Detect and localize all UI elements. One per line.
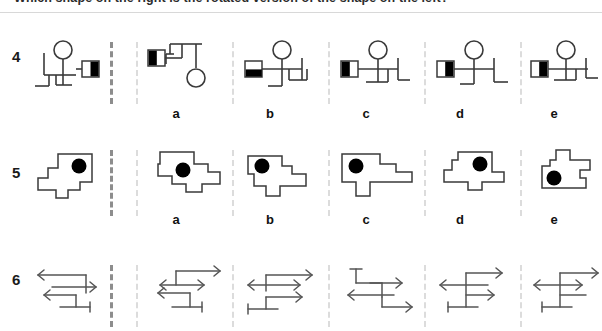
row-4-option-a[interactable] bbox=[146, 38, 232, 133]
row-6-separator-d bbox=[424, 265, 426, 327]
row-5-reference-figure bbox=[30, 146, 110, 238]
row-5-option-b[interactable] bbox=[240, 146, 326, 238]
row-6-option-b[interactable] bbox=[240, 263, 326, 331]
question-sheet: 4 bbox=[0, 13, 602, 323]
row-4-separator-c bbox=[328, 42, 330, 104]
row-4-option-c[interactable] bbox=[336, 38, 422, 133]
row-5-option-d[interactable] bbox=[432, 146, 518, 238]
row-4-separator-e bbox=[520, 42, 522, 104]
row-5-letter-b: b bbox=[260, 212, 280, 227]
polygon-outline bbox=[444, 152, 504, 190]
row-4-reference-figure bbox=[30, 38, 110, 133]
marker-dot bbox=[547, 171, 562, 186]
row-6-option-c[interactable] bbox=[336, 263, 422, 331]
row-6-main-separator bbox=[110, 265, 113, 327]
row-5-reference-svg bbox=[30, 146, 110, 212]
row-4-option-e-svg bbox=[528, 38, 602, 110]
row-6-separator-c bbox=[328, 265, 330, 327]
row-5-option-d-svg bbox=[432, 146, 518, 212]
row-4-number: 4 bbox=[12, 48, 20, 65]
row-6-reference-figure bbox=[30, 263, 110, 331]
row-5-separator-e bbox=[520, 150, 522, 216]
row-4-option-a-svg bbox=[146, 38, 232, 110]
page-header-strip: Which shape on the right is the rotated … bbox=[0, 0, 602, 12]
question-row-5: 5 a b bbox=[0, 146, 602, 238]
row-4-option-b[interactable] bbox=[240, 38, 326, 133]
circle-symbol bbox=[187, 69, 205, 87]
row-4-separator-b bbox=[232, 42, 234, 104]
half-filled-square-symbol bbox=[437, 61, 454, 77]
row-5-option-b-svg bbox=[240, 146, 326, 212]
row-6-number: 6 bbox=[12, 271, 20, 288]
row-5-option-e[interactable] bbox=[528, 146, 602, 238]
row-6-separator-a bbox=[136, 265, 138, 327]
row-4-letter-d: d bbox=[450, 106, 470, 121]
row-6-separator-e bbox=[520, 265, 522, 327]
row-4-separator-d bbox=[424, 42, 426, 104]
row-4-option-d-svg bbox=[432, 38, 518, 110]
half-filled-square-symbol bbox=[148, 50, 165, 66]
row-5-option-c[interactable] bbox=[336, 146, 422, 238]
row-4-option-b-svg bbox=[240, 38, 326, 110]
row-5-option-a[interactable] bbox=[146, 146, 232, 238]
row-6-option-d[interactable] bbox=[432, 263, 518, 331]
row-5-option-a-svg bbox=[146, 146, 232, 212]
row-5-separator-d bbox=[424, 150, 426, 216]
row-4-option-c-svg bbox=[336, 38, 422, 110]
row-5-letter-d: d bbox=[450, 212, 470, 227]
row-5-separator-b bbox=[232, 150, 234, 216]
row-6-option-a[interactable] bbox=[146, 263, 232, 331]
circle-symbol bbox=[54, 41, 72, 59]
question-row-6: 6 bbox=[0, 263, 602, 331]
row-4-letter-c: c bbox=[356, 106, 376, 121]
circle-symbol bbox=[369, 41, 387, 59]
row-4-letter-a: a bbox=[166, 106, 186, 121]
row-4-separator-a bbox=[136, 42, 138, 104]
question-row-4: 4 bbox=[0, 38, 602, 133]
row-5-separator-c bbox=[328, 150, 330, 216]
half-filled-square-symbol bbox=[531, 61, 548, 77]
half-filled-square-symbol bbox=[341, 61, 358, 77]
row-5-main-separator bbox=[110, 150, 113, 216]
marker-dot bbox=[255, 159, 270, 174]
row-4-main-separator bbox=[110, 42, 113, 104]
circle-symbol bbox=[557, 41, 575, 59]
row-6-option-b-svg bbox=[240, 263, 326, 329]
marker-dot bbox=[473, 157, 488, 172]
row-4-letter-b: b bbox=[260, 106, 280, 121]
row-5-number: 5 bbox=[12, 164, 20, 181]
row-4-letter-e: e bbox=[544, 106, 564, 121]
row-6-separator-b bbox=[232, 265, 234, 327]
marker-dot bbox=[349, 159, 364, 174]
row-5-option-e-svg bbox=[528, 146, 602, 212]
row-6-option-e-svg bbox=[528, 263, 602, 329]
row-5-option-c-svg bbox=[336, 146, 422, 212]
row-6-option-c-svg bbox=[336, 263, 422, 329]
row-6-option-a-svg bbox=[146, 263, 232, 329]
row-4-option-d[interactable] bbox=[432, 38, 518, 133]
page-header-text: Which shape on the right is the rotated … bbox=[14, 0, 448, 5]
row-4-reference-svg bbox=[30, 38, 110, 108]
row-5-letter-a: a bbox=[166, 212, 186, 227]
marker-dot bbox=[176, 163, 191, 178]
half-filled-square-symbol bbox=[82, 61, 99, 77]
row-6-option-d-svg bbox=[432, 263, 518, 329]
marker-dot bbox=[72, 159, 87, 174]
row-5-letter-e: e bbox=[544, 212, 564, 227]
row-6-option-e[interactable] bbox=[528, 263, 602, 331]
row-5-separator-a bbox=[136, 150, 138, 216]
circle-symbol bbox=[465, 41, 483, 59]
row-4-option-e[interactable] bbox=[528, 38, 602, 133]
row-6-reference-svg bbox=[30, 263, 110, 329]
half-filled-square-symbol bbox=[245, 61, 262, 77]
row-5-letter-c: c bbox=[356, 212, 376, 227]
circle-symbol bbox=[273, 41, 291, 59]
